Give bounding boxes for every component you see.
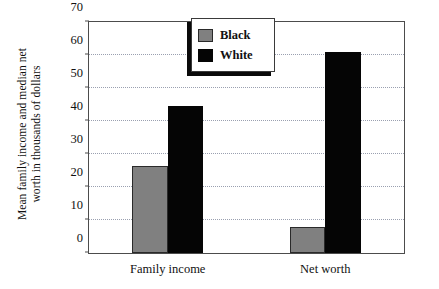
bar-chart: Mean family income and median net worth …	[0, 0, 439, 289]
legend-swatch-white	[198, 49, 213, 62]
bar-black-net-worth	[290, 227, 325, 253]
y-axis-title: Mean family income and median net worth …	[8, 0, 50, 268]
y-axis-tick-label: 20	[71, 165, 84, 180]
y-axis-tick-label: 10	[71, 198, 84, 213]
legend-label-black: Black	[220, 28, 251, 43]
bar-black-family-income	[132, 166, 167, 253]
y-axis-title-line-2: worth in thousands of dollars	[29, 48, 43, 220]
y-axis-tick-label: 0	[77, 231, 83, 246]
y-axis-tick-label: 30	[71, 132, 84, 147]
y-axis-tick-label: 50	[71, 66, 84, 81]
legend-item-black: Black	[198, 25, 267, 45]
bar-white-family-income	[168, 106, 203, 253]
y-axis-title-line-1: Mean family income and median net	[15, 48, 29, 220]
legend-label-white: White	[220, 48, 253, 63]
y-axis-tick-label: 60	[71, 33, 84, 48]
legend-swatch-black	[198, 29, 213, 42]
y-axis-tick-label: 40	[71, 99, 84, 114]
legend: Black White	[191, 18, 275, 72]
x-axis-label: Family income	[130, 262, 205, 277]
x-axis-label: Net worth	[300, 262, 350, 277]
y-axis-tick-label: 70	[71, 0, 84, 15]
legend-item-white: White	[198, 45, 267, 65]
bar-white-net-worth	[325, 52, 360, 253]
